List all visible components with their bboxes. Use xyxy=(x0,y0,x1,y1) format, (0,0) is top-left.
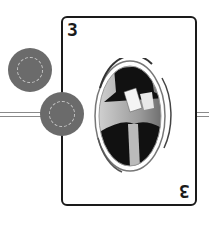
card-rank-bottom: 3 xyxy=(179,182,190,200)
poker-chip-1 xyxy=(8,48,52,92)
chip-ring-icon xyxy=(49,101,75,127)
card-rank-top: 3 xyxy=(67,21,78,39)
magician-portrait xyxy=(92,58,172,178)
chip-ring-icon xyxy=(17,57,43,83)
poker-chip-2 xyxy=(40,92,84,136)
